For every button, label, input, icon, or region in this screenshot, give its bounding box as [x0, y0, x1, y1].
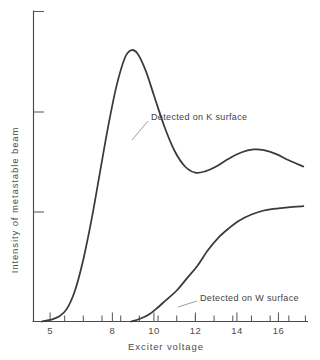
- y-axis-title: Intensity of metastable beam: [9, 127, 20, 274]
- x-tick-label: 16: [273, 325, 284, 336]
- x-tick-label: 5: [47, 325, 53, 336]
- x-axis-ticks: [50, 313, 305, 322]
- x-tick-label: 14: [231, 325, 242, 336]
- x-tick-label: 12: [190, 325, 201, 336]
- leader-line-k-surface: [132, 121, 148, 140]
- x-axis-title: Exciter voltage: [128, 341, 204, 352]
- chart-canvas: 5810121416 Detected on K surface Detecte…: [0, 0, 320, 360]
- x-tick-label: 8: [110, 325, 116, 336]
- x-axis-tick-labels: 5810121416: [47, 325, 284, 336]
- curve-k-surface: [42, 50, 304, 322]
- y-axis-ticks: [34, 12, 45, 213]
- curve-w-surface: [131, 206, 303, 321]
- annotation-k-surface: Detected on K surface: [151, 112, 247, 122]
- figure-container: 5810121416 Detected on K surface Detecte…: [0, 0, 320, 360]
- annotation-w-surface: Detected on W surface: [200, 293, 299, 303]
- x-tick-label: 10: [148, 325, 159, 336]
- leader-line-w-surface: [178, 301, 197, 307]
